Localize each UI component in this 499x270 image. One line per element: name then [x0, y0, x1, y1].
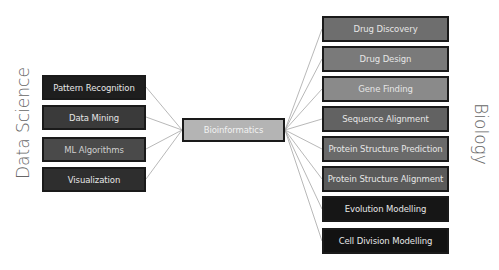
biology-group-label: Biology	[471, 94, 491, 174]
node-sequence-alignment: Sequence Alignment	[322, 106, 449, 132]
node-bioinformatics: Bioinformatics	[182, 118, 285, 142]
node-protein-structure-prediction: Protein Structure Prediction	[322, 136, 449, 162]
node-data-mining: Data Mining	[42, 105, 146, 130]
node-gene-finding: Gene Finding	[322, 76, 449, 102]
node-evolution-modelling: Evolution Modelling	[322, 196, 449, 222]
node-pattern-recognition: Pattern Recognition	[42, 75, 146, 100]
data-science-group-label: Data Science	[13, 89, 33, 179]
bioinformatics-diagram: Data Science Biology Pattern Recognition…	[0, 0, 499, 270]
node-visualization: Visualization	[42, 167, 146, 192]
node-cell-division-modelling: Cell Division Modelling	[322, 228, 449, 254]
node-drug-design: Drug Design	[322, 46, 449, 72]
node-ml-algorithms: ML Algorithms	[42, 137, 146, 162]
node-drug-discovery: Drug Discovery	[322, 16, 449, 42]
node-protein-structure-alignment: Protein Structure Alignment	[322, 166, 449, 192]
